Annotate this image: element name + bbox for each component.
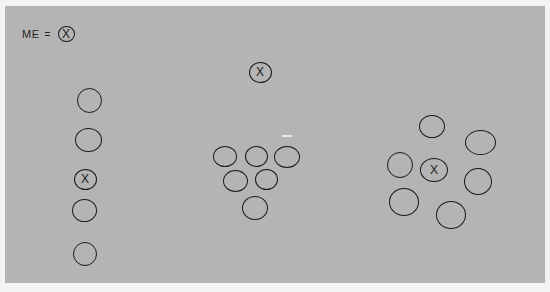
legend-equals: = xyxy=(45,29,51,40)
person-circle xyxy=(223,170,248,192)
me-circle: X xyxy=(249,62,272,83)
person-circle xyxy=(255,169,278,190)
person-circle xyxy=(464,168,492,195)
person-circle xyxy=(245,146,268,167)
person-circle xyxy=(389,188,419,216)
person-circle xyxy=(73,242,97,266)
x-mark-icon: X xyxy=(81,172,89,186)
person-circle xyxy=(213,146,237,167)
x-mark-icon: X xyxy=(62,27,71,41)
person-circle xyxy=(436,201,466,229)
me-circle: X xyxy=(420,158,448,182)
me-circle: X xyxy=(74,169,97,190)
person-circle xyxy=(77,88,102,113)
person-circle xyxy=(387,152,413,178)
legend: ME = X xyxy=(22,26,75,42)
person-circle xyxy=(242,196,268,220)
person-circle xyxy=(465,130,496,155)
legend-label: ME xyxy=(22,28,40,40)
legend-me-circle: X xyxy=(58,26,75,42)
person-circle xyxy=(419,115,445,138)
person-circle xyxy=(75,128,102,152)
stray-mark xyxy=(282,135,292,137)
x-mark-icon: X xyxy=(430,163,438,177)
person-circle xyxy=(274,146,300,168)
person-circle xyxy=(72,199,97,222)
x-mark-icon: X xyxy=(256,65,264,79)
